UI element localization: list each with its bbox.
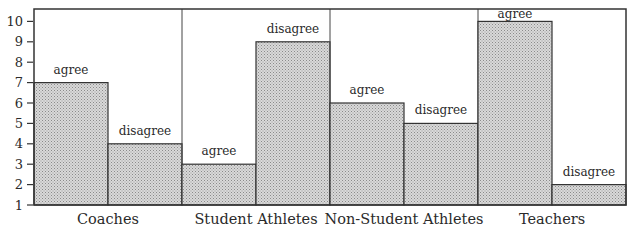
bar-label: disagree bbox=[563, 165, 615, 179]
bar-agree bbox=[478, 21, 552, 205]
x-axis-labels: CoachesStudent AthletesNon-Student Athle… bbox=[77, 211, 585, 227]
y-tick-label: 3 bbox=[15, 157, 23, 172]
y-tick-label: 8 bbox=[15, 55, 23, 70]
y-tick-label: 6 bbox=[15, 96, 23, 111]
bar-label: agree bbox=[54, 63, 89, 77]
bar-agree bbox=[34, 83, 108, 205]
bar-label: agree bbox=[202, 144, 237, 158]
bar-agree bbox=[182, 164, 256, 205]
category-group: agreedisagree bbox=[182, 9, 330, 205]
bar-disagree bbox=[256, 42, 330, 205]
x-category-label: Student Athletes bbox=[194, 211, 317, 227]
y-tick-label: 5 bbox=[15, 116, 23, 131]
y-tick-label: 10 bbox=[6, 14, 23, 29]
bar-label: disagree bbox=[267, 22, 319, 36]
x-category-label: Coaches bbox=[77, 211, 139, 227]
category-group: agreedisagree bbox=[478, 7, 626, 205]
category-groups: agreedisagreeagreedisagreeagreedisagreea… bbox=[34, 7, 626, 205]
x-category-label: Non-Student Athletes bbox=[325, 211, 484, 227]
y-tick-label: 1 bbox=[15, 198, 23, 213]
y-tick-label: 4 bbox=[15, 136, 23, 151]
x-category-label: Teachers bbox=[519, 211, 585, 227]
y-tick-label: 7 bbox=[15, 75, 23, 90]
bar-label: agree bbox=[350, 83, 385, 97]
chart-canvas: agreedisagreeagreedisagreeagreedisagreea… bbox=[0, 0, 633, 230]
bar-label: disagree bbox=[119, 124, 171, 138]
category-group: agreedisagree bbox=[34, 63, 182, 205]
bar-agree bbox=[330, 103, 404, 205]
bar-disagree bbox=[552, 185, 626, 205]
y-tick-label: 9 bbox=[15, 34, 23, 49]
y-tick-label: 2 bbox=[15, 177, 23, 192]
bar-chart: agreedisagreeagreedisagreeagreedisagreea… bbox=[0, 0, 633, 230]
category-group: agreedisagree bbox=[330, 9, 478, 205]
bar-disagree bbox=[108, 144, 182, 205]
bar-label: disagree bbox=[415, 103, 467, 117]
bar-disagree bbox=[404, 123, 478, 205]
y-axis: 12345678910 bbox=[6, 14, 33, 213]
